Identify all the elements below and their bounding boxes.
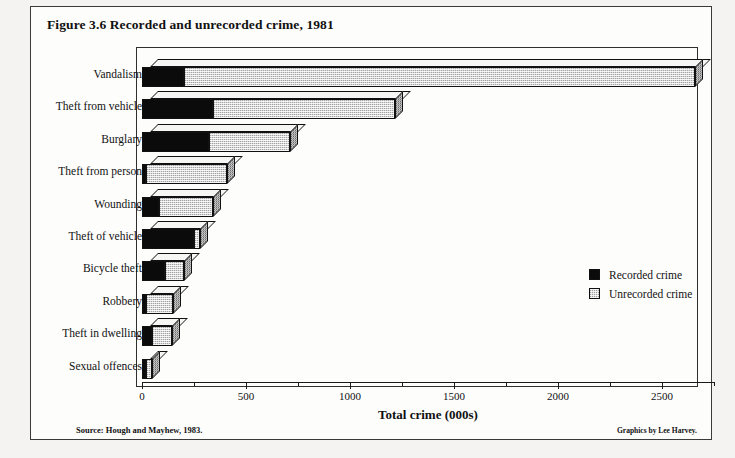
bar-row: Wounding [31, 189, 142, 219]
x-tick-label: 1500 [443, 390, 465, 402]
bar-top-face [150, 91, 411, 99]
legend-swatch-recorded [589, 269, 600, 280]
stacked-bar [142, 91, 395, 111]
stacked-bar [142, 318, 172, 338]
x-axis-line [142, 382, 714, 383]
segment-unrecorded [213, 99, 395, 119]
x-tick-major [142, 382, 143, 389]
bar-top-face [150, 318, 188, 326]
bar-top-face [150, 59, 711, 67]
category-label: Theft of vehicle [39, 221, 142, 251]
bar-row: Bicycle theft [31, 253, 142, 283]
category-label: Burglary [39, 124, 142, 154]
figure-page: Figure 3.6 Recorded and unrecorded crime… [0, 0, 735, 458]
bar-row: Robbery [31, 286, 142, 316]
category-label: Bicycle theft [39, 253, 142, 283]
x-tick-minor [194, 382, 195, 386]
segment-recorded [142, 229, 194, 249]
segment-unrecorded [184, 67, 696, 87]
legend: Recorded crime Unrecorded crime [589, 265, 692, 303]
x-tick-minor [298, 382, 299, 386]
bar-row: Theft from vehicle [31, 91, 142, 121]
stacked-bar [142, 124, 290, 144]
bar-top-face [150, 253, 200, 261]
segment-unrecorded [146, 294, 173, 314]
bar-row: Sexual offences [31, 351, 142, 381]
bar-row: Vandalism [31, 59, 142, 89]
x-tick-label: 500 [238, 390, 255, 402]
x-tick-major [246, 382, 247, 389]
x-tick-major [454, 382, 455, 389]
segment-unrecorded [209, 132, 290, 152]
source-note: Source: Hough and Mayhew, 1983. [76, 425, 202, 435]
legend-label-unrecorded: Unrecorded crime [609, 288, 692, 300]
x-tick-label: 2500 [651, 390, 673, 402]
x-tick-major [662, 382, 663, 389]
segment-recorded [142, 99, 213, 119]
x-tick-label: 1000 [339, 390, 361, 402]
category-label: Robbery [39, 286, 142, 316]
legend-item-recorded: Recorded crime [589, 265, 692, 284]
segment-unrecorded [152, 326, 172, 346]
stacked-bar [142, 189, 213, 209]
segment-unrecorded [146, 164, 227, 184]
segment-unrecorded [165, 261, 184, 281]
category-label: Theft in dwelling [39, 318, 142, 348]
segment-recorded [142, 197, 159, 217]
segment-recorded [142, 132, 209, 152]
x-tick-major [558, 382, 559, 389]
credit-note: Graphics by Lee Harvey. [617, 426, 697, 435]
bar-row: Theft of vehicle [31, 221, 142, 251]
bar-top-face [150, 124, 306, 132]
stacked-bar [142, 221, 200, 241]
bar-row: Theft in dwelling [31, 318, 142, 348]
category-label: Wounding [39, 189, 142, 219]
category-label: Vandalism [39, 59, 142, 89]
category-label: Theft from vehicle [39, 91, 142, 121]
legend-item-unrecorded: Unrecorded crime [589, 284, 692, 303]
bar-row: Burglary [31, 124, 142, 154]
segment-recorded [142, 67, 184, 87]
x-tick-label: 2000 [547, 390, 569, 402]
segment-recorded [142, 326, 152, 346]
stacked-bar [142, 253, 184, 273]
x-tick-major [350, 382, 351, 389]
x-tick-minor [714, 382, 715, 386]
legend-label-recorded: Recorded crime [609, 269, 682, 281]
stacked-bar [142, 286, 173, 306]
bars-layer: VandalismTheft from vehicleBurglaryTheft… [31, 7, 711, 439]
x-axis-title: Total crime (000s) [142, 407, 714, 423]
stacked-bar [142, 156, 227, 176]
x-tick-minor [610, 382, 611, 386]
bar-row: Theft from person [31, 156, 142, 186]
x-tick-minor [506, 382, 507, 386]
figure-frame: Figure 3.6 Recorded and unrecorded crime… [30, 6, 712, 440]
legend-swatch-unrecorded [589, 288, 600, 299]
x-tick-label: 0 [139, 390, 145, 402]
x-tick-minor [402, 382, 403, 386]
stacked-bar [142, 351, 152, 371]
bar-top-face [150, 286, 189, 294]
segment-recorded [142, 261, 165, 281]
stacked-bar [142, 59, 695, 79]
category-label: Theft from person [39, 156, 142, 186]
category-label: Sexual offences [39, 351, 142, 381]
segment-unrecorded [159, 197, 213, 217]
